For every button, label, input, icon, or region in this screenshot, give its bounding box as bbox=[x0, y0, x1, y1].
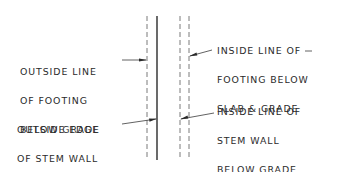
label-line: OF FOOTING bbox=[20, 96, 100, 106]
arrowhead-inside-footing bbox=[189, 53, 197, 57]
label-line: INSIDE LINE OF bbox=[217, 46, 309, 56]
label-line: OUTSIDE EDGE bbox=[17, 125, 99, 135]
foundation-wall-diagram: OUTSIDE LINE OF FOOTING BELOW GRADE OUTS… bbox=[0, 0, 339, 172]
label-line: BELOW GRADE bbox=[217, 165, 301, 172]
arrowhead-outside-footing bbox=[139, 58, 147, 61]
label-inside-line-stem-wall: INSIDE LINE OF STEM WALL BELOW GRADE bbox=[217, 88, 301, 172]
label-line: STEM WALL bbox=[217, 136, 301, 146]
label-line: OUTSIDE LINE bbox=[20, 67, 100, 77]
label-outside-edge-stem-wall: OUTSIDE EDGE OF STEM WALL ABOVE GRADE bbox=[17, 106, 99, 172]
label-line: INSIDE LINE OF bbox=[217, 107, 301, 117]
arrowhead-inside-stem-wall bbox=[180, 116, 188, 120]
arrowhead-outside-stem-wall bbox=[149, 119, 157, 122]
label-line: OF STEM WALL bbox=[17, 154, 99, 164]
label-line: FOOTING BELOW bbox=[217, 75, 309, 85]
